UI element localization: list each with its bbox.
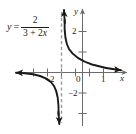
equation-lhs: y (7, 22, 11, 32)
x-tick-label-0: 0 (76, 74, 81, 84)
x-tick-label-1: 1 (101, 74, 106, 84)
y-axis-label: y (74, 6, 78, 16)
equation-denominator-variable: x (43, 28, 47, 38)
equation-annotation: y = 2 3 + 2x (7, 16, 65, 39)
equation-denominator-terms: 3 + 2 (23, 28, 43, 38)
y-tick-label-minus2: −2 (68, 88, 78, 98)
x-axis-label: x (120, 73, 124, 83)
equation-equals-sign: = (13, 22, 19, 32)
y-axis (79, 9, 87, 126)
equation-numerator: 2 (30, 16, 41, 26)
equation-denominator: 3 + 2x (21, 29, 49, 39)
curve-left-branch-lower-arrow (58, 112, 59, 124)
x-tick-label-minus2: −2 (45, 74, 55, 84)
equation-fraction: 2 3 + 2x (21, 16, 49, 39)
graph-figure: y = 2 3 + 2x −2 0 1 2 −2 x y (0, 0, 136, 134)
y-tick-label-2: 2 (72, 26, 77, 36)
